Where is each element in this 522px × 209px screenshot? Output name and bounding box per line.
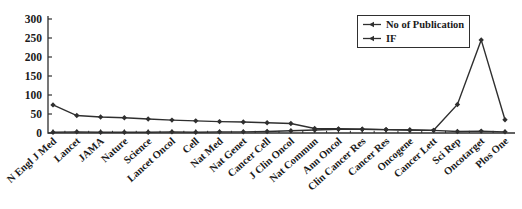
data-point-marker-no-of-publication (407, 127, 412, 132)
data-point-marker-if (74, 113, 79, 118)
data-point-marker-no-of-publication (169, 129, 174, 134)
data-point-marker-if (169, 117, 174, 122)
data-point-marker-if (122, 115, 127, 120)
journal-publication-if-chart: 050100150200250300N Engl J MedLancetJAMA… (0, 0, 522, 209)
y-tick-label: 250 (25, 32, 43, 44)
data-point-marker-if (50, 102, 55, 107)
x-tick-label: N Engl J Med (5, 135, 59, 185)
legend-label-if: IF (386, 32, 397, 45)
data-point-marker-if (98, 114, 103, 119)
data-point-marker-no-of-publication (241, 129, 246, 134)
data-point-marker-no-of-publication (98, 130, 103, 135)
legend-marker-publications-icon (362, 20, 382, 29)
y-tick-label: 150 (25, 70, 43, 82)
data-point-marker-no-of-publication (122, 130, 127, 135)
y-tick-label: 50 (31, 108, 43, 120)
data-point-marker-if (145, 116, 150, 121)
data-point-marker-no-of-publication (336, 127, 341, 132)
data-point-marker-if (288, 121, 293, 126)
data-point-marker-no-of-publication (50, 130, 55, 135)
data-point-marker-no-of-publication (479, 37, 484, 42)
data-point-marker-no-of-publication (502, 117, 507, 122)
series-line-no-of-publication (53, 40, 505, 132)
legend-label-publications: No of Publication (386, 18, 464, 31)
data-point-marker-no-of-publication (217, 129, 222, 134)
data-point-marker-no-of-publication (74, 129, 79, 134)
data-point-marker-if (241, 119, 246, 124)
legend-item-publications: No of Publication (362, 17, 464, 31)
data-point-marker-if (217, 119, 222, 124)
data-point-marker-no-of-publication (360, 127, 365, 132)
data-point-marker-no-of-publication (193, 130, 198, 135)
chart-legend: No of Publication IF (357, 15, 470, 48)
data-point-marker-if (502, 129, 507, 134)
legend-item-if: IF (362, 31, 464, 45)
y-tick-label: 100 (25, 89, 43, 101)
series-line-if (53, 105, 505, 132)
data-point-marker-if (193, 118, 198, 123)
y-tick-label: 200 (25, 51, 43, 63)
y-tick-label: 300 (25, 13, 43, 25)
data-point-marker-if (264, 120, 269, 125)
legend-marker-if-icon (362, 34, 382, 43)
data-point-marker-no-of-publication (383, 127, 388, 132)
data-point-marker-no-of-publication (145, 130, 150, 135)
x-tick-label: Lancet (52, 135, 83, 164)
y-tick-label: 0 (36, 127, 42, 139)
